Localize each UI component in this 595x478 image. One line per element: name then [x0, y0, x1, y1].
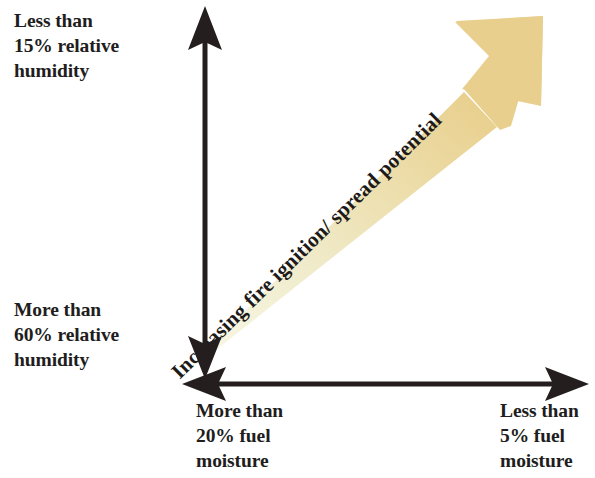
trend-arrow-head-upper [456, 16, 543, 106]
x-axis-left-label: More than 20% fuel moisture [196, 398, 283, 473]
x-axis-right-label: Less than 5% fuel moisture [500, 398, 579, 473]
y-axis-top-label: Less than 15% relative humidity [14, 8, 119, 83]
trend-arrow-label: Increasing fire ignition/ spread potenti… [149, 100, 454, 401]
y-axis-bottom-label: More than 60% relative humidity [14, 297, 119, 372]
trend-arrow-head-lower [462, 16, 543, 106]
diagram-canvas: Increasing fire ignition/ spread potenti… [0, 0, 595, 478]
trend-arrow-head [455, 16, 543, 130]
